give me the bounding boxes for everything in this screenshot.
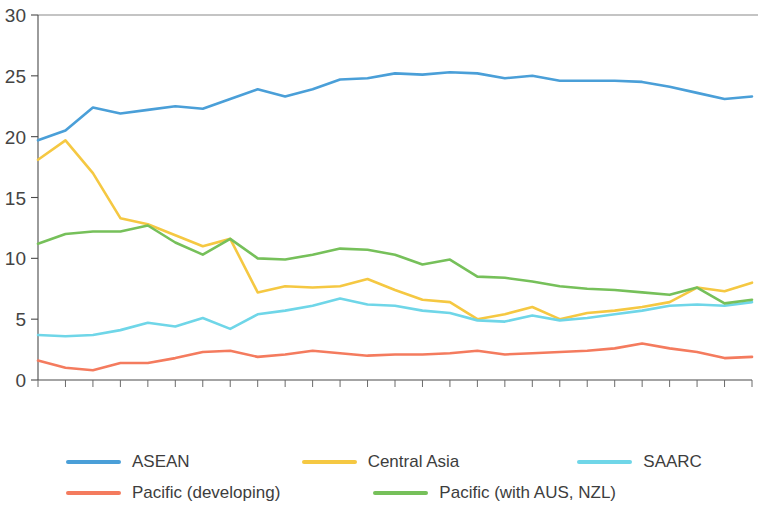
- y-tick-label: 20: [5, 127, 26, 148]
- legend-row-2: Pacific (developing) Pacific (with AUS, …: [0, 477, 758, 508]
- series-line-pacific-developing: [38, 344, 752, 371]
- series-group: [38, 72, 752, 370]
- legend-swatch-pacific-aus-nzl: [373, 491, 428, 495]
- legend-label-asean: ASEAN: [132, 452, 190, 472]
- legend-swatch-central-asia: [302, 460, 357, 464]
- legend-label-pacific-aus-nzl: Pacific (with AUS, NZL): [439, 483, 616, 503]
- series-line-saarc: [38, 298, 752, 336]
- x-axis: [38, 380, 752, 387]
- legend-swatch-pacific-developing: [66, 491, 121, 495]
- legend-item-central-asia[interactable]: Central Asia: [302, 446, 460, 477]
- y-tick-label: 30: [5, 5, 26, 26]
- line-chart-svg: 051015202530 199219931994199519961997199…: [0, 0, 758, 390]
- legend-row-1: ASEAN Central Asia SAARC: [0, 446, 758, 477]
- y-tick-label: 5: [15, 309, 26, 330]
- y-axis: 051015202530: [5, 5, 38, 390]
- legend-label-pacific-developing: Pacific (developing): [132, 483, 280, 503]
- legend-label-central-asia: Central Asia: [368, 452, 460, 472]
- chart-legend: ASEAN Central Asia SAARC Pacific (develo…: [0, 446, 758, 509]
- legend-item-saarc[interactable]: SAARC: [577, 446, 702, 477]
- legend-label-saarc: SAARC: [643, 452, 702, 472]
- legend-item-pacific-developing[interactable]: Pacific (developing): [66, 477, 280, 508]
- legend-item-pacific-aus-nzl[interactable]: Pacific (with AUS, NZL): [373, 477, 616, 508]
- y-tick-label: 15: [5, 188, 26, 209]
- legend-swatch-asean: [66, 460, 121, 464]
- legend-swatch-saarc: [577, 460, 632, 464]
- plot-area: 051015202530 199219931994199519961997199…: [0, 0, 758, 390]
- y-tick-label: 0: [15, 370, 26, 390]
- y-tick-label: 10: [5, 248, 26, 269]
- legend-item-asean[interactable]: ASEAN: [66, 446, 190, 477]
- series-line-asean: [38, 72, 752, 140]
- chart-container: 051015202530 199219931994199519961997199…: [0, 0, 758, 509]
- y-tick-label: 25: [5, 66, 26, 87]
- series-line-pacific-with-aus-nzl: [38, 225, 752, 303]
